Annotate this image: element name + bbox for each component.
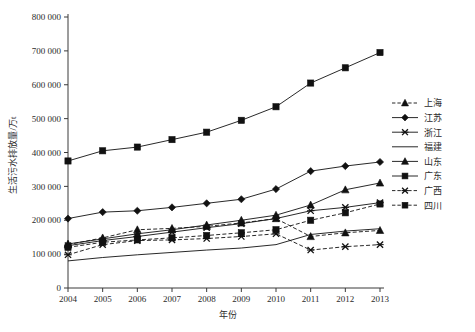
line-chart: 0100 000200 000300 000400 000500 000600 …	[0, 0, 475, 332]
data-point-square	[273, 104, 279, 110]
y-axis-tick-label: 700 000	[32, 46, 62, 56]
y-axis-tick-label: 300 000	[32, 182, 62, 192]
data-point-square	[308, 217, 314, 223]
legend-label: 四川	[424, 201, 442, 211]
data-point-square	[65, 158, 71, 164]
data-point-square	[204, 232, 210, 238]
x-axis-tick-label: 2008	[198, 294, 217, 304]
data-point-square	[342, 65, 348, 71]
y-axis-title: 生活污水排放量/万t	[7, 116, 18, 194]
data-point-square	[134, 144, 140, 150]
data-point-square	[100, 148, 106, 154]
legend-label: 江苏	[424, 112, 442, 123]
y-axis-tick-label: 200 000	[32, 215, 62, 225]
data-point-square	[238, 230, 244, 236]
y-axis-tick-label: 100 000	[32, 249, 62, 259]
chart-canvas: 0100 000200 000300 000400 000500 000600 …	[0, 0, 475, 332]
data-point-square	[134, 237, 140, 243]
y-axis-tick-label: 0	[57, 283, 62, 293]
legend-label: 广东	[424, 170, 442, 181]
data-point-square	[273, 227, 279, 233]
legend-label: 广西	[424, 185, 442, 196]
x-axis-tick-label: 2012	[336, 294, 354, 304]
data-point-square	[238, 117, 244, 123]
x-axis-tick-label: 2009	[232, 294, 251, 304]
legend-label: 浙江	[424, 127, 442, 138]
data-point-square	[377, 49, 383, 55]
data-point-square	[204, 129, 210, 135]
x-axis-tick-label: 2010	[267, 294, 286, 304]
x-axis-tick-label: 2005	[94, 294, 113, 304]
legend-label: 上海	[424, 97, 442, 108]
data-point-square	[377, 201, 383, 207]
data-point-square	[100, 239, 106, 245]
y-axis-tick-label: 400 000	[32, 148, 62, 158]
chart-background	[0, 0, 475, 332]
data-point-square	[169, 235, 175, 241]
y-axis-tick-label: 500 000	[32, 114, 62, 124]
y-axis-tick-label: 600 000	[32, 80, 62, 90]
data-point-square	[402, 202, 408, 208]
x-axis-title: 年份	[219, 309, 237, 320]
data-point-square	[342, 210, 348, 216]
x-axis-tick-label: 2011	[302, 294, 320, 304]
data-point-square	[308, 80, 314, 86]
y-axis-tick-label: 800 000	[32, 12, 62, 22]
legend-label: 山东	[424, 156, 442, 167]
legend-label: 福建	[424, 141, 442, 152]
x-axis-tick-label: 2004	[59, 294, 78, 304]
x-axis-tick-label: 2007	[163, 294, 182, 304]
x-axis-tick-label: 2006	[128, 294, 147, 304]
x-axis-tick-label: 2013	[371, 294, 390, 304]
data-point-square	[169, 137, 175, 143]
data-point-square	[65, 244, 71, 250]
data-point-square	[402, 173, 408, 179]
